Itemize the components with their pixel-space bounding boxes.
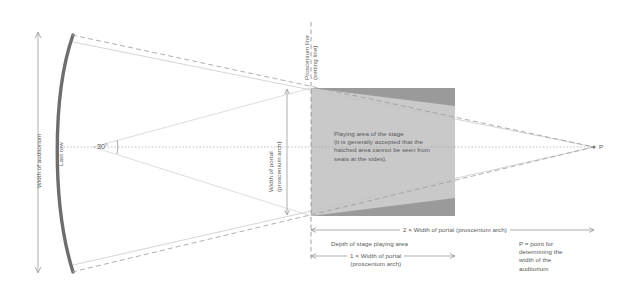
two-width-portal-label: 2 × Width of portal (proscenium arch)	[400, 226, 510, 234]
auditorium-sightline-diagram: Width of auditorium Last row 30° Proscen…	[0, 0, 618, 294]
viewing-angle-label: 30°	[97, 143, 108, 151]
proscenium-line-label: Proscenium line (setting line)	[303, 35, 319, 80]
viewing-cone-upper	[93, 88, 311, 147]
depth-of-stage-label: Depth of stage playing area	[331, 240, 408, 248]
width-of-portal-label: Width of portal (proscenium arch)	[267, 141, 283, 192]
point-p-marker	[592, 145, 595, 148]
playing-area-label: Playing area of the stage (it is general…	[334, 130, 430, 163]
point-p-label: P	[599, 143, 603, 151]
one-width-portal-label: 1 × Width of portal (proscenium arch)	[347, 252, 404, 268]
width-of-auditorium-label: Width of auditorium	[35, 134, 43, 188]
point-p-definition-label: P = point for determining the width of t…	[519, 240, 562, 273]
last-row-label: Last row	[57, 142, 65, 166]
